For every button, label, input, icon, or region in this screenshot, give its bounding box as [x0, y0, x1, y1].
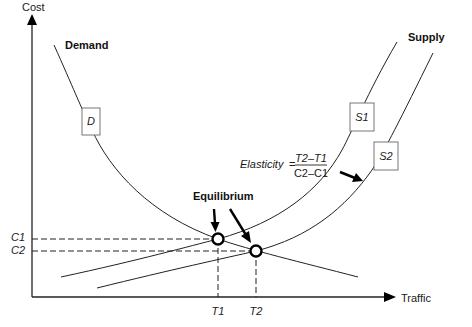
elasticity-numerator: T2–T1	[295, 152, 327, 164]
guide-lines	[32, 239, 256, 297]
y-axis-arrowhead-icon	[27, 14, 37, 25]
y-axis: Cost	[22, 1, 45, 297]
equilibrium-arrow-1-icon	[211, 209, 220, 232]
equilibrium-point-2	[251, 246, 262, 257]
tick-t2: T2	[250, 305, 263, 317]
supply-title: Supply	[408, 31, 446, 43]
equilibrium-arrow-2-icon	[230, 209, 251, 243]
elasticity-formula: Elasticity = T2–T1 C2–C1	[240, 152, 328, 179]
equilibrium-point-1	[213, 234, 224, 245]
x-axis-arrowhead-icon	[384, 292, 396, 302]
x-axis-label: Traffic	[401, 292, 431, 304]
supply-demand-diagram: Cost Traffic Demand Supply D S1 S2 Elast…	[0, 0, 472, 327]
shift-arrow-icon	[340, 172, 363, 182]
demand-label-box: D	[82, 108, 100, 135]
supply2-box-label: S2	[379, 150, 392, 162]
elasticity-denominator: C2–C1	[294, 167, 328, 179]
supply1-label-box: S1	[350, 103, 374, 131]
supply-curve-s1	[61, 42, 397, 277]
tick-t1: T1	[212, 305, 225, 317]
x-axis: Traffic	[32, 292, 431, 304]
equilibrium-label: Equilibrium	[193, 190, 254, 202]
elasticity-label: Elasticity	[240, 158, 285, 170]
supply2-label-box: S2	[374, 142, 398, 170]
supply1-box-label: S1	[355, 111, 368, 123]
demand-title: Demand	[65, 39, 108, 51]
demand-box-label: D	[87, 115, 95, 127]
tick-c1: C1	[11, 231, 25, 243]
y-axis-label: Cost	[22, 1, 45, 13]
tick-c2: C2	[11, 244, 25, 256]
